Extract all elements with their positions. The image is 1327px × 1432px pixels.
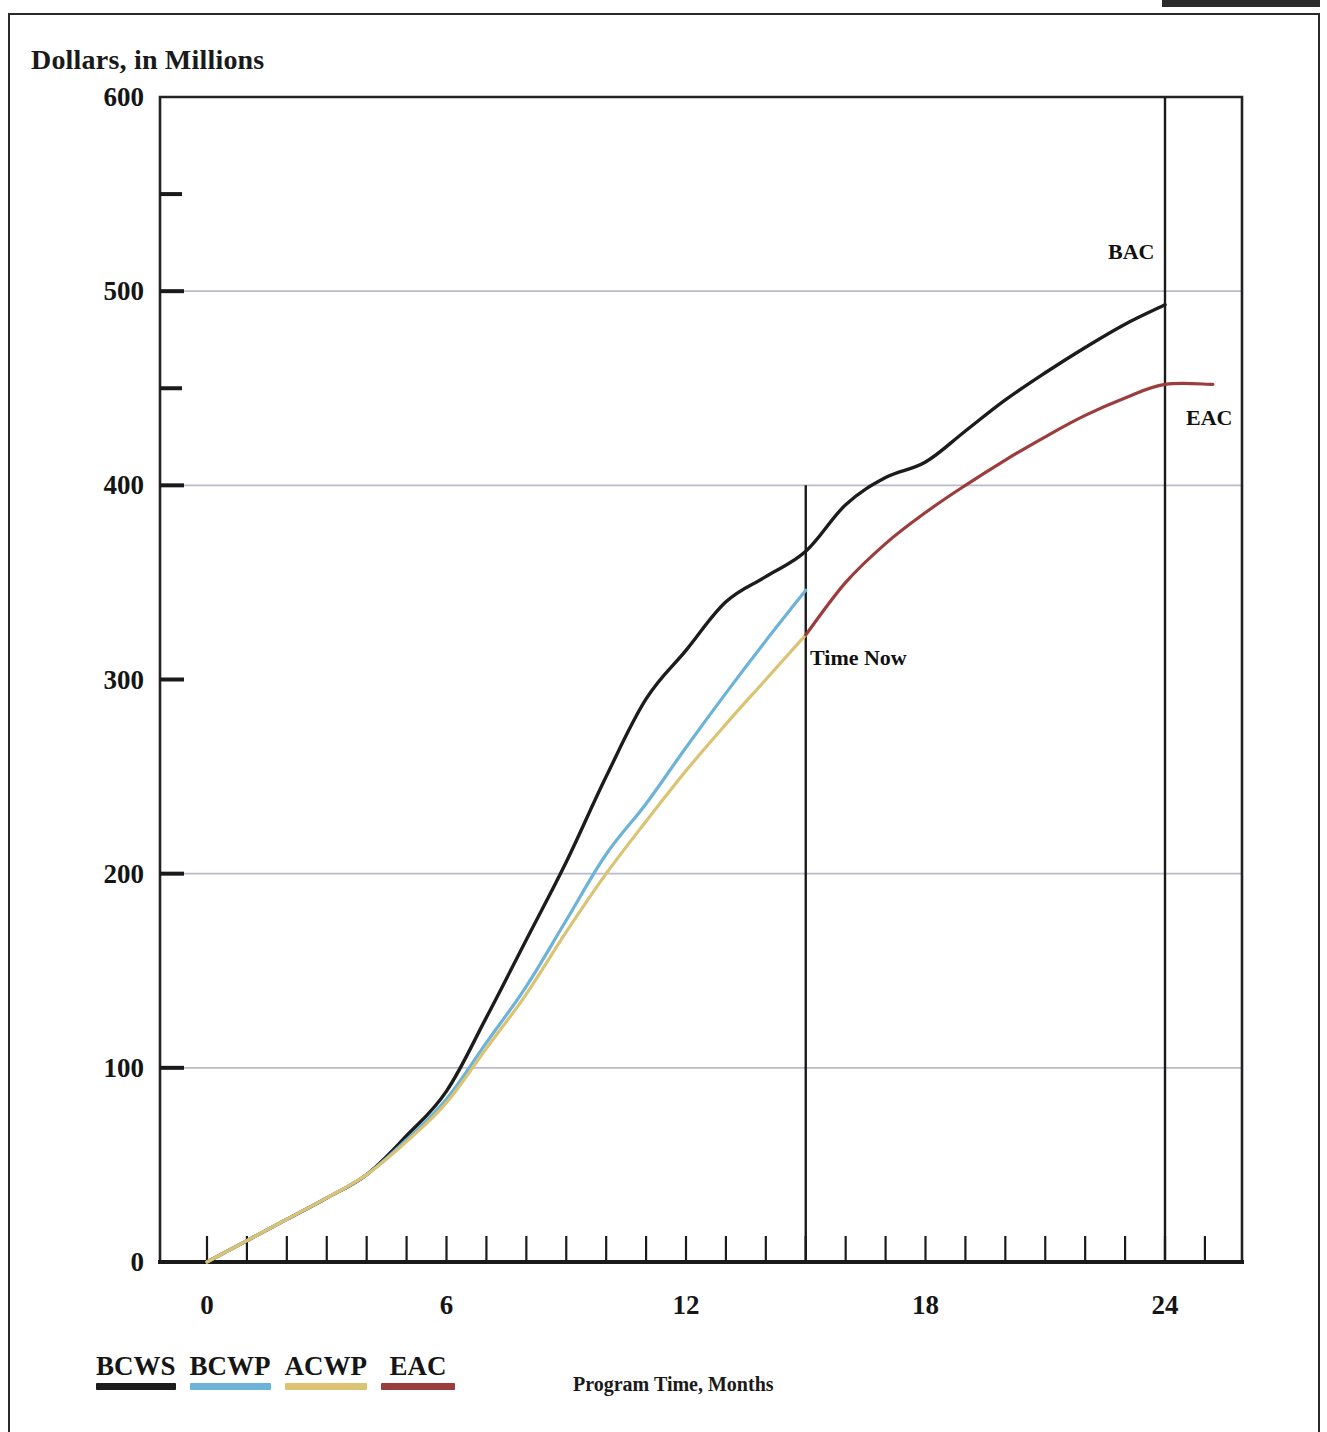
annotation-time-now: Time Now <box>810 645 907 671</box>
gridlines <box>160 291 1242 1068</box>
chart-plot-area <box>0 0 1327 1432</box>
legend-item-bcws[interactable]: BCWS <box>96 1352 176 1390</box>
series-lines <box>207 305 1213 1262</box>
y-tick-label: 300 <box>64 664 144 695</box>
legend-item-eac[interactable]: EAC <box>381 1352 455 1390</box>
chart-page: Dollars, in Millions Program Time, Month… <box>0 0 1327 1432</box>
series-line-eac <box>806 383 1213 635</box>
legend-swatch-acwp <box>285 1383 368 1390</box>
y-tick-label: 0 <box>64 1247 144 1278</box>
chart-legend: BCWSBCWPACWPEAC <box>96 1352 455 1390</box>
axis-ticks <box>160 194 1205 1262</box>
annotation-bac: BAC <box>1108 239 1154 265</box>
legend-label: BCWS <box>96 1352 176 1380</box>
x-tick-label: 0 <box>177 1290 237 1321</box>
legend-swatch-bcws <box>96 1383 176 1390</box>
vertical-marker-lines <box>806 97 1165 1262</box>
series-line-bcwp <box>207 590 806 1262</box>
y-tick-label: 200 <box>64 858 144 889</box>
legend-swatch-eac <box>381 1383 455 1390</box>
legend-swatch-bcwp <box>190 1383 271 1390</box>
y-tick-label: 500 <box>64 276 144 307</box>
legend-label: ACWP <box>285 1352 368 1380</box>
y-tick-label: 100 <box>64 1052 144 1083</box>
y-tick-label: 600 <box>64 82 144 113</box>
series-line-acwp <box>207 635 806 1262</box>
legend-item-acwp[interactable]: ACWP <box>285 1352 368 1390</box>
x-tick-label: 18 <box>896 1290 956 1321</box>
plot-frame <box>158 97 1244 1262</box>
x-tick-label: 6 <box>417 1290 477 1321</box>
series-line-bcws <box>207 305 1165 1262</box>
legend-item-bcwp[interactable]: BCWP <box>190 1352 271 1390</box>
x-tick-label: 12 <box>656 1290 716 1321</box>
x-tick-label: 24 <box>1135 1290 1195 1321</box>
plot-border <box>160 97 1242 1262</box>
legend-label: BCWP <box>190 1352 271 1380</box>
legend-label: EAC <box>390 1352 447 1380</box>
y-tick-label: 400 <box>64 470 144 501</box>
annotation-eac: EAC <box>1186 405 1232 431</box>
